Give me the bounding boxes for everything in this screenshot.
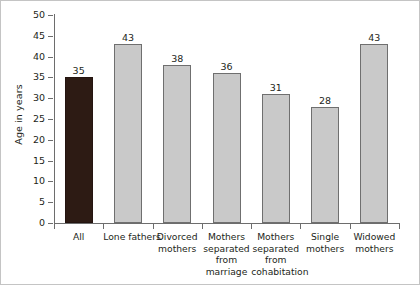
x-category-label-line: Mothers [202,231,251,243]
x-category-label: Widowedmothers [350,231,399,254]
bar: 31 [262,94,290,223]
bar-value-label: 36 [220,62,232,72]
x-tick-mark [300,224,301,229]
x-tick-mark [350,224,351,229]
x-category-label-line: Divorced [153,231,202,243]
x-tick-mark [251,224,252,229]
y-tick-label: 15 [15,156,45,165]
bar: 35 [65,77,93,223]
x-category-label-line: Mothers [251,231,300,243]
y-tick-label: 20 [15,135,45,144]
bar-value-label: 43 [368,33,380,43]
bar: 36 [213,73,241,223]
bar: 43 [360,44,388,223]
y-tick-label: 10 [15,176,45,185]
y-tick-mark [48,36,53,37]
bar-value-label: 35 [73,66,85,76]
y-tick-mark [48,119,53,120]
x-category-label-line: All [54,231,103,243]
x-category-label-line: marriage [202,266,251,278]
x-category-label-line: separated [202,243,251,255]
y-tick-label: 0 [15,218,45,227]
bar: 43 [114,44,142,223]
bar-value-label: 38 [171,54,183,64]
x-category-label-line: mothers [300,243,349,255]
x-category-label-line: separated [251,243,300,255]
x-category-label-line: from [251,254,300,266]
y-tick-label: 30 [15,93,45,102]
x-tick-mark [202,224,203,229]
y-tick-label: 45 [15,31,45,40]
x-tick-mark [103,224,104,229]
bar-value-label: 43 [122,33,134,43]
x-category-label-line: Lone fathers [103,231,152,243]
x-category-label-line: Single [300,231,349,243]
y-tick-label: 5 [15,197,45,206]
bar: 38 [163,65,191,223]
bar-value-label: 28 [319,96,331,106]
x-category-label: Divorcedmothers [153,231,202,254]
y-tick-mark [48,77,53,78]
x-category-label: Singlemothers [300,231,349,254]
y-tick-mark [48,140,53,141]
y-tick-mark [48,181,53,182]
plot-area: 35433836312843 [54,15,399,223]
x-category-label: Mothersseparatedfrommarriage [202,231,251,277]
x-tick-mark [153,224,154,229]
y-tick-mark [48,202,53,203]
bar: 28 [311,107,339,223]
bar-value-label: 31 [270,83,282,93]
y-tick-mark [48,15,53,16]
bar-chart: Age in years 05101520253035404550 354338… [0,0,420,285]
y-tick-mark [48,223,53,224]
y-tick-label: 40 [15,52,45,61]
x-category-label: Mothersseparatedfromcohabitation [251,231,300,277]
x-tick-mark [54,224,55,229]
y-tick-mark [48,161,53,162]
x-category-label-line: mothers [153,243,202,255]
x-tick-mark [399,224,400,229]
x-category-label-line: mothers [350,243,399,255]
x-category-label-line: cohabitation [251,266,300,278]
x-category-label-line: from [202,254,251,266]
x-category-label-line: Widowed [350,231,399,243]
y-tick-mark [48,57,53,58]
y-tick-mark [48,98,53,99]
y-tick-label: 25 [15,114,45,123]
x-category-label: Lone fathers [103,231,152,243]
x-axis-line [54,223,400,224]
y-tick-label: 35 [15,72,45,81]
y-tick-label: 50 [15,10,45,19]
x-category-label: All [54,231,103,243]
